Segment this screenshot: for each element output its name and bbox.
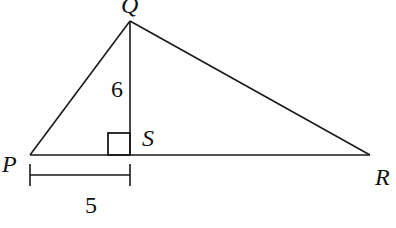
segment-qr — [130, 21, 370, 155]
label-point-r: R — [374, 164, 390, 190]
label-point-q: Q — [121, 0, 138, 18]
triangle-diagram: Q P S R 6 5 — [0, 0, 396, 228]
right-angle-marker — [108, 133, 130, 155]
label-point-p: P — [1, 151, 17, 177]
label-length-ps: 5 — [85, 192, 97, 218]
label-length-qs: 6 — [111, 76, 123, 102]
label-point-s: S — [142, 125, 154, 151]
